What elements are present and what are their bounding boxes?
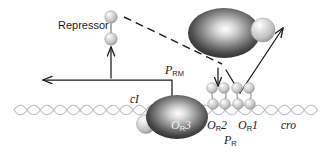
cro-gene-label: cro [281,119,296,131]
figure-canvas: Repressor PRM PR cI cro OR3 OR2 OR1 [0,0,326,158]
sigma-subunit-sphere [251,18,275,42]
p-r-label: PR [224,133,237,148]
or2-base: O [207,118,216,132]
p-rm-label: PRM [165,63,184,78]
or3-number: 3 [185,118,191,132]
ci-gene-label: cI [130,93,139,105]
repressor-label: Repressor [58,19,109,31]
or1-label: OR1 [238,118,258,133]
diagram-svg [0,0,326,158]
transcription-arrow-left [43,80,172,104]
or2-label: OR2 [207,118,227,133]
p-r-subscript: R [231,139,236,148]
or1-number: 1 [252,118,258,132]
or3-base: O [171,118,180,132]
or3-label: OR3 [171,118,191,133]
p-rm-subscript: RM [172,69,184,78]
or2-number: 2 [221,118,227,132]
or1-base: O [238,118,247,132]
rna-polymerase-free [188,8,275,58]
